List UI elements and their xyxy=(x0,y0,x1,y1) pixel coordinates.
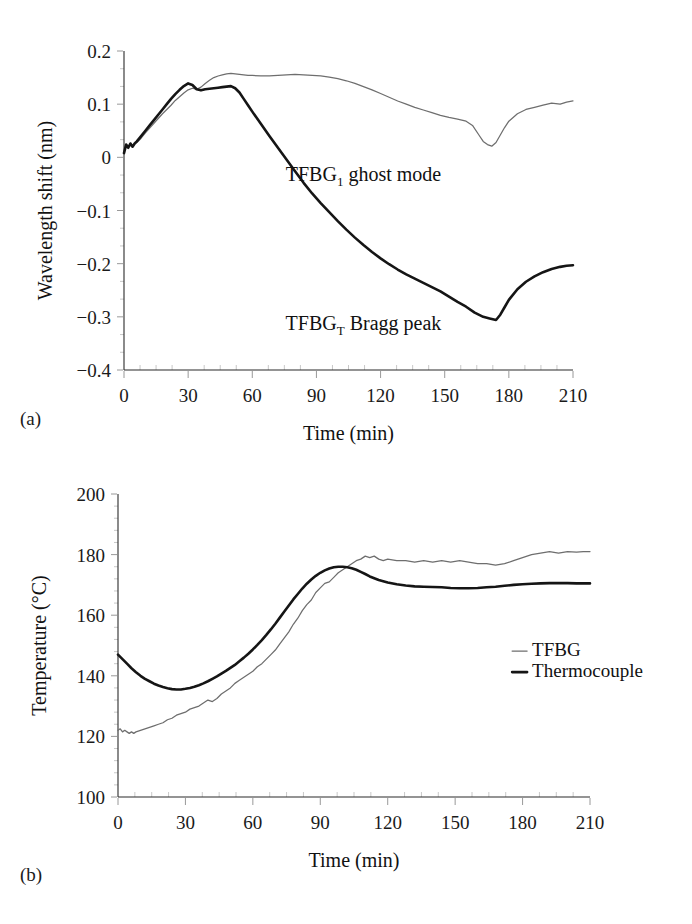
x-tick-label: 150 xyxy=(441,812,470,833)
x-tick-label: 0 xyxy=(113,812,123,833)
figure-container: 0.20.10−0.1−0.2−0.3−0.4 0306090120150180… xyxy=(0,0,692,924)
panel-label-b: (b) xyxy=(20,864,42,886)
panel-b-legend: TFBGThermocouple xyxy=(512,639,643,681)
y-tick-label: −0.1 xyxy=(77,201,111,222)
y-tick-label: −0.2 xyxy=(77,254,111,275)
y-tick-label: 0.1 xyxy=(87,94,111,115)
series-line xyxy=(124,83,573,320)
x-tick-label: 60 xyxy=(243,385,262,406)
panel-label-a: (a) xyxy=(20,408,41,430)
panel-b-ticks xyxy=(111,494,590,805)
y-tick-label: 0.2 xyxy=(87,41,111,62)
y-tick-label: 120 xyxy=(77,726,106,747)
panel-b-xticklabels: 0306090120150180210 xyxy=(113,812,604,833)
x-tick-label: 120 xyxy=(373,812,402,833)
x-tick-label: 60 xyxy=(243,812,262,833)
y-tick-label: 140 xyxy=(77,666,106,687)
x-tick-label: 90 xyxy=(311,812,330,833)
panel-a-xticklabels: 0306090120150180210 xyxy=(119,385,587,406)
panel-a-series xyxy=(124,73,573,320)
chart-panel-a: 0.20.10−0.1−0.2−0.3−0.4 0306090120150180… xyxy=(0,0,692,460)
panel-b-yticklabels: 200180160140120100 xyxy=(77,484,106,808)
x-tick-label: 30 xyxy=(176,812,195,833)
series-line xyxy=(118,552,590,734)
bragg-peak-label: TFBGT Bragg peak xyxy=(286,312,442,338)
x-tick-label: 180 xyxy=(508,812,537,833)
panel-a-x-axis-title: Time (min) xyxy=(303,422,394,445)
panel-b-x-axis-title: Time (min) xyxy=(309,849,400,872)
x-tick-label: 30 xyxy=(179,385,198,406)
temperature-chart: 200180160140120100 0306090120150180210 T… xyxy=(0,460,692,924)
ghost-mode-label: TFBG1 ghost mode xyxy=(286,163,442,189)
y-tick-label: 160 xyxy=(77,605,106,626)
y-tick-label: 180 xyxy=(77,545,106,566)
x-tick-label: 180 xyxy=(495,385,524,406)
y-tick-label: 100 xyxy=(77,787,106,808)
y-tick-label: −0.4 xyxy=(77,360,112,381)
x-tick-label: 210 xyxy=(576,812,605,833)
x-tick-label: 150 xyxy=(430,385,459,406)
x-tick-label: 120 xyxy=(366,385,395,406)
panel-a-y-axis-title: Wavelength shift (nm) xyxy=(34,121,57,300)
chart-panel-b: 200180160140120100 0306090120150180210 T… xyxy=(0,460,692,924)
y-tick-label: −0.3 xyxy=(77,307,111,328)
x-tick-label: 210 xyxy=(559,385,588,406)
x-tick-label: 90 xyxy=(307,385,326,406)
legend-label: TFBG xyxy=(532,639,581,660)
panel-b-y-axis-title: Temperature (°C) xyxy=(28,575,51,715)
y-tick-label: 200 xyxy=(77,484,106,505)
x-tick-label: 0 xyxy=(119,385,129,406)
panel-a-yticklabels: 0.20.10−0.1−0.2−0.3−0.4 xyxy=(77,41,112,381)
panel-b-series xyxy=(118,552,590,734)
wavelength-shift-chart: 0.20.10−0.1−0.2−0.3−0.4 0306090120150180… xyxy=(0,0,692,460)
y-tick-label: 0 xyxy=(102,147,112,168)
legend-label: Thermocouple xyxy=(532,660,643,681)
